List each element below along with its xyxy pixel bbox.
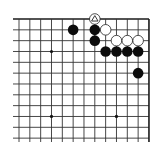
black-stone-disc bbox=[133, 68, 144, 79]
black-stone-disc bbox=[122, 46, 133, 57]
black-stone[interactable] bbox=[100, 46, 111, 57]
white-stone[interactable] bbox=[90, 14, 101, 25]
star-point bbox=[50, 50, 53, 53]
black-stone[interactable] bbox=[133, 46, 144, 57]
white-stone-disc bbox=[100, 25, 111, 36]
black-stone[interactable] bbox=[68, 25, 79, 36]
black-stone-disc bbox=[100, 46, 111, 57]
black-stone[interactable] bbox=[90, 25, 101, 36]
white-stone-disc bbox=[122, 35, 133, 46]
star-point bbox=[115, 115, 118, 118]
white-stone[interactable] bbox=[133, 35, 144, 46]
go-board[interactable] bbox=[0, 0, 160, 153]
black-stone[interactable] bbox=[133, 68, 144, 79]
white-stone[interactable] bbox=[100, 25, 111, 36]
black-stone[interactable] bbox=[111, 46, 122, 57]
black-stone-disc bbox=[68, 25, 79, 36]
black-stone-disc bbox=[90, 35, 101, 46]
black-stone-disc bbox=[133, 46, 144, 57]
white-stone-disc bbox=[111, 35, 122, 46]
star-point bbox=[50, 115, 53, 118]
black-stone[interactable] bbox=[90, 35, 101, 46]
black-stone[interactable] bbox=[122, 46, 133, 57]
white-stone[interactable] bbox=[111, 35, 122, 46]
black-stone-disc bbox=[111, 46, 122, 57]
white-stone[interactable] bbox=[122, 35, 133, 46]
black-stone-disc bbox=[90, 25, 101, 36]
white-stone-disc bbox=[133, 35, 144, 46]
